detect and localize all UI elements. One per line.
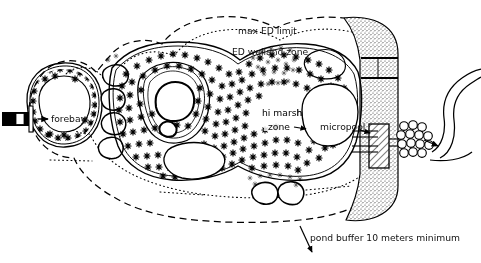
ed-wetland-pond-diagram: max ED limit ED welland zone hi marsh zo… bbox=[0, 0, 481, 263]
island-core-small bbox=[159, 122, 176, 137]
island-core bbox=[156, 82, 195, 121]
open-water-pocket bbox=[164, 143, 225, 179]
micropool-open-water bbox=[302, 84, 358, 146]
label-hi-marsh-zone-line1-top: hi marsh bbox=[262, 107, 302, 118]
label-micropool: micropool bbox=[320, 121, 365, 132]
label-pond-buffer: pond buffer 10 meters minimum bbox=[310, 232, 460, 243]
label-max-ed-limit: max ED limit bbox=[238, 25, 297, 36]
label-hi-marsh-zone-line2-top: zone bbox=[268, 121, 290, 132]
label-ed-wetland-zone: ED welland zone bbox=[232, 46, 309, 57]
label-forebay: forebay bbox=[51, 113, 87, 124]
forebay-open-water bbox=[39, 76, 90, 132]
